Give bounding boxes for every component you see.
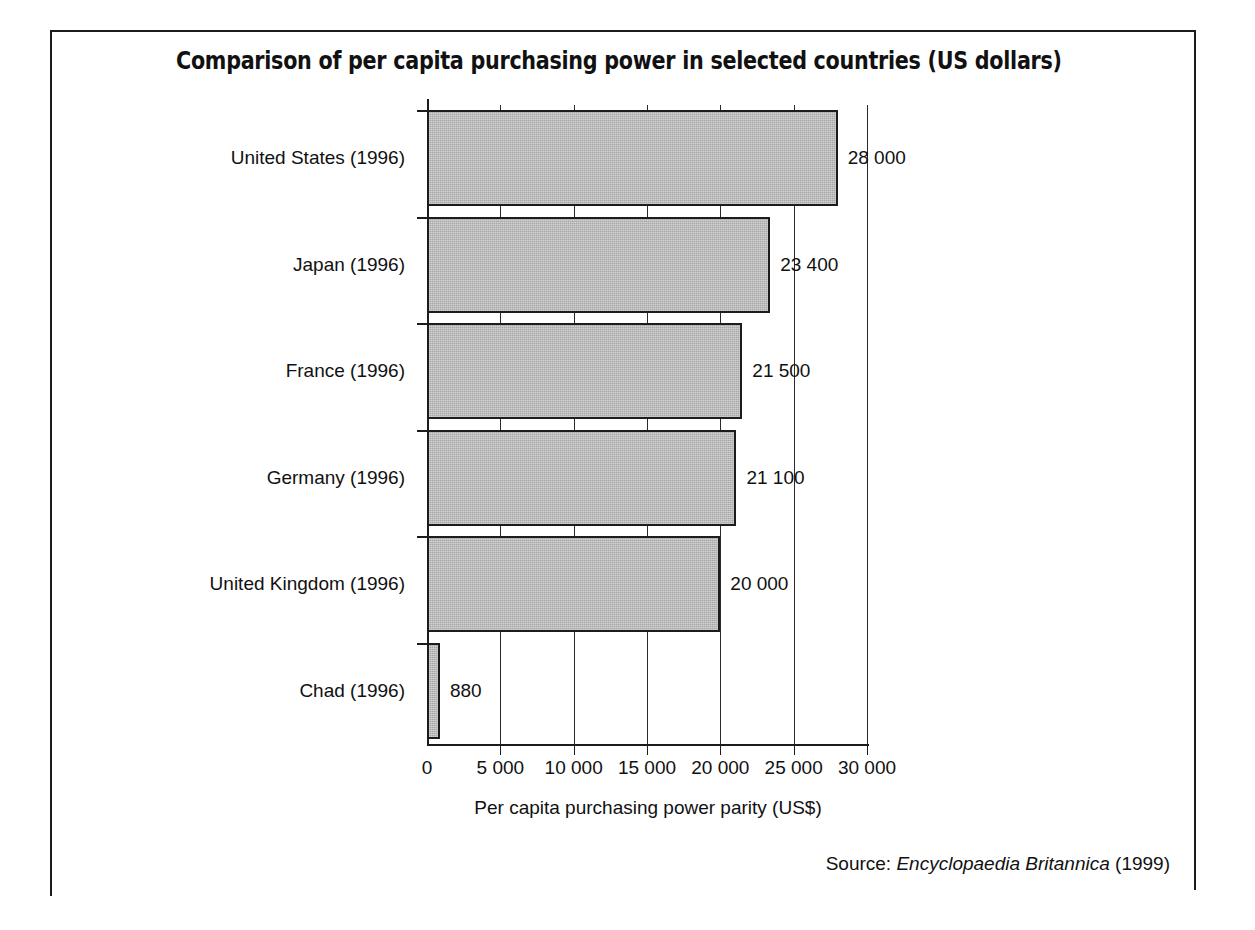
x-axis-tick-30000 <box>867 744 868 755</box>
category-label: Chad (1996) <box>0 680 405 702</box>
value-label: 21 500 <box>752 360 810 382</box>
x-axis-tick-label: 20 000 <box>691 757 749 779</box>
y-axis-tick <box>417 430 427 432</box>
value-label: 21 100 <box>746 467 804 489</box>
value-label: 23 400 <box>780 254 838 276</box>
source-prefix: Source: <box>826 853 891 874</box>
y-axis-tick <box>417 110 427 112</box>
x-axis-tick-label: 15 000 <box>618 757 676 779</box>
bar <box>427 323 742 419</box>
x-axis-tick-20000 <box>720 744 721 755</box>
bar <box>427 430 736 526</box>
value-label: 28 000 <box>848 147 906 169</box>
x-axis-tick-label: 10 000 <box>545 757 603 779</box>
y-axis-line <box>427 99 429 745</box>
bar-row <box>427 536 867 632</box>
category-label: France (1996) <box>0 360 405 382</box>
chart-title: Comparison of per capita purchasing powe… <box>176 46 1004 76</box>
x-axis-line <box>427 744 869 746</box>
y-axis-tick <box>417 323 427 325</box>
gridline-30000 <box>867 105 868 744</box>
source-note: Source: Encyclopaedia Britannica (1999) <box>700 853 1170 875</box>
x-axis-tick-label: 5 000 <box>477 757 525 779</box>
value-label: 880 <box>450 680 482 702</box>
value-label: 20 000 <box>730 573 788 595</box>
bar <box>427 536 720 632</box>
y-axis-tick <box>417 217 427 219</box>
bar <box>427 110 838 206</box>
figure-page: Comparison of per capita purchasing powe… <box>0 0 1255 930</box>
plot-area <box>427 105 867 744</box>
bar <box>427 217 770 313</box>
y-axis-tick <box>417 643 427 645</box>
category-label: Germany (1996) <box>0 467 405 489</box>
bar-row <box>427 643 867 739</box>
source-year: (1999) <box>1115 853 1170 874</box>
x-axis-tick-label: 25 000 <box>765 757 823 779</box>
x-axis-tick-5000 <box>500 744 501 755</box>
source-work-title: Encyclopaedia Britannica <box>896 853 1109 874</box>
x-axis-title: Per capita purchasing power parity (US$) <box>427 797 869 819</box>
category-label: Japan (1996) <box>0 254 405 276</box>
x-axis-tick-10000 <box>574 744 575 755</box>
x-axis-tick-label: 30 000 <box>838 757 896 779</box>
page-frame-right-border <box>1194 30 1196 890</box>
bar-row <box>427 110 867 206</box>
x-axis-tick-label: 0 <box>422 757 433 779</box>
category-label: United Kingdom (1996) <box>0 573 405 595</box>
x-axis-tick-15000 <box>647 744 648 755</box>
y-axis-tick <box>417 536 427 538</box>
x-axis-tick-25000 <box>794 744 795 755</box>
page-frame-top-border <box>50 30 1196 32</box>
category-label: United States (1996) <box>0 147 405 169</box>
